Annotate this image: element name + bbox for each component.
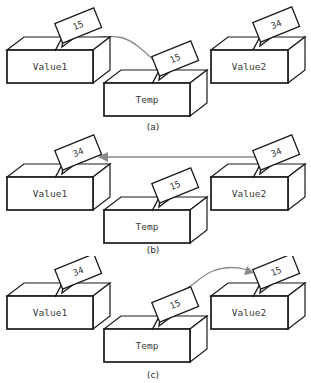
- caption-c: (c): [147, 370, 159, 380]
- value2-box: Value2: [211, 37, 305, 83]
- value2-label: Value2: [232, 61, 266, 72]
- copy-arrow-value2-to-value1: [98, 152, 262, 162]
- value2-box: Value2: [211, 283, 305, 329]
- caption-b: (b): [147, 245, 160, 255]
- figure-canvas: Value1 15 Temp 15: [0, 0, 311, 383]
- value1-label: Value1: [33, 61, 68, 72]
- temp-label: Temp: [136, 340, 159, 351]
- temp-label: Temp: [136, 94, 159, 105]
- value2-label: Value2: [232, 307, 266, 318]
- panel-a: Value1 15 Temp 15: [0, 0, 311, 135]
- value2-label: Value2: [232, 188, 266, 199]
- caption-a: (a): [147, 122, 160, 132]
- value1-label: Value1: [33, 307, 68, 318]
- panel-b: Value1 34 Temp 15: [0, 131, 311, 256]
- panel-c: Value1 34 Temp 15: [0, 256, 311, 383]
- temp-label: Temp: [136, 221, 159, 232]
- value2-box: Value2: [211, 164, 305, 210]
- value1-label: Value1: [33, 188, 68, 199]
